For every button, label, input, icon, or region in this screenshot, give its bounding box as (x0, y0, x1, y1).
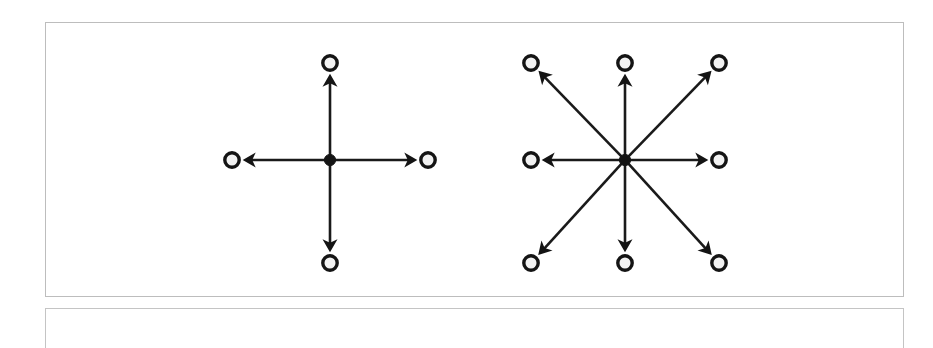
neighborhood-diagram-svg (45, 22, 904, 297)
edge-southwest (544, 161, 624, 249)
neighbor-node-southwest (524, 256, 538, 270)
neighbor-node-west (524, 153, 538, 167)
edge-southeast (626, 161, 706, 249)
neighbor-node-southeast (712, 256, 726, 270)
edge-northwest (544, 77, 623, 159)
edge-northeast (626, 77, 705, 159)
neighborhood-figure-canvas (45, 22, 904, 297)
neighbor-node-east (421, 153, 435, 167)
page-frame-secondary (45, 308, 904, 348)
neighbor-node-northwest (524, 56, 538, 70)
center-pixel-node (619, 154, 630, 165)
neighbor-node-north (618, 56, 632, 70)
diagram-four-connected (225, 56, 435, 270)
neighbor-node-south (618, 256, 632, 270)
neighbor-node-south (323, 256, 337, 270)
neighbor-node-east (712, 153, 726, 167)
neighbor-node-west (225, 153, 239, 167)
neighbor-node-north (323, 56, 337, 70)
center-pixel-node (324, 154, 335, 165)
neighbor-node-northeast (712, 56, 726, 70)
diagram-eight-connected (524, 56, 726, 270)
